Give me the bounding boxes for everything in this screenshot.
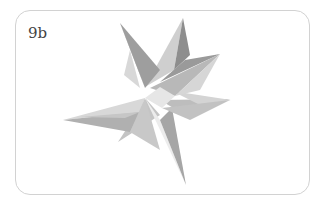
origami-star-image [0,0,321,205]
